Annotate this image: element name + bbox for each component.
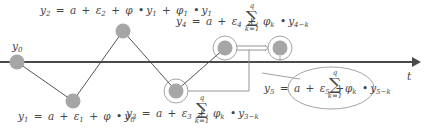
equation-y3-tail: φk •y3−k (213, 107, 259, 121)
axis-label-t: t (407, 70, 411, 82)
sum-y5: q ∑ k=1 (327, 69, 343, 100)
axis-arrowhead (412, 57, 421, 67)
equation-y5-tail: φk •y5−k (345, 82, 391, 96)
series-path (17, 31, 225, 101)
ellipse-pointer (262, 73, 300, 79)
node-y2 (116, 24, 131, 39)
node-y0 (10, 55, 25, 70)
equation-y4-tail: φk •y4−k (263, 15, 309, 29)
sum-y3: q ∑ k=1 (194, 94, 210, 125)
node-y5 (273, 41, 288, 56)
node-y1 (66, 94, 81, 109)
label-y0: y0 (12, 40, 22, 54)
node-y3 (169, 84, 184, 99)
node-y4 (218, 41, 233, 56)
equation-y1: y1 = a + ε1 + φ •y0 (18, 110, 135, 124)
sum-y4: q ∑ k=1 (244, 2, 260, 33)
y4-y5-arrow (265, 45, 268, 51)
